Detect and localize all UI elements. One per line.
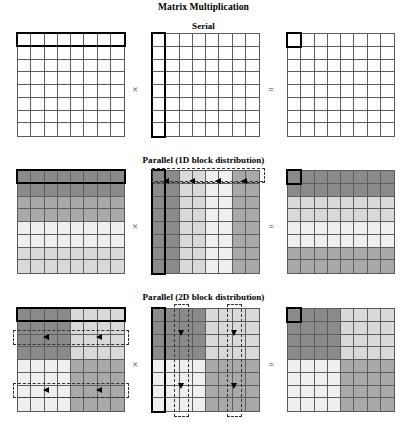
block1d-matrix-b-cell [219, 248, 232, 261]
serial-matrix-a-cell [31, 60, 44, 73]
serial-matrix-a-cell [111, 47, 124, 60]
block1d-matrix-c-cell [301, 171, 314, 184]
serial-matrix-c-cell [328, 123, 341, 136]
block1d-matrix-a-cell [98, 260, 111, 273]
block1d-matrix-b-cell [180, 248, 193, 261]
block2d-matrix-b-cell [193, 322, 206, 335]
block1d-matrix-a-cell [31, 260, 44, 273]
operator-times-serial: × [126, 85, 144, 95]
block1d-matrix-a-cell [45, 184, 58, 197]
block1d-matrix-c-cell [341, 171, 354, 184]
block1d-matrix-a-cell [31, 197, 44, 210]
block1d-matrix-c-cell [354, 248, 367, 261]
block1d-matrix-b-cell [193, 222, 206, 235]
serial-matrix-a-cell [31, 123, 44, 136]
serial-matrix-a-cell [31, 72, 44, 85]
serial-matrix-b-cell [233, 34, 246, 47]
serial-matrix-b-cell [233, 123, 246, 136]
block1d-matrix-a-cell [98, 184, 111, 197]
serial-matrix-b-cell [233, 72, 246, 85]
serial-matrix-b-cell [166, 47, 179, 60]
block1d-matrix-b-cell [166, 260, 179, 273]
block2d-matrix-a-cell [31, 322, 44, 335]
block1d-matrix-a-cell [18, 197, 31, 210]
serial-matrix-c-cell [354, 47, 367, 60]
block1d-matrix-c-cell [301, 260, 314, 273]
block2d-matrix-c-cell [381, 360, 394, 373]
block2d-matrix-b-cell [233, 398, 246, 411]
serial-matrix-b-cell [166, 34, 179, 47]
block2d-matrix-a-cell [98, 360, 111, 373]
serial-matrix-a-cell [84, 111, 97, 124]
block1d-matrix-b-cell [180, 260, 193, 273]
block2d-matrix-a-cell [31, 360, 44, 373]
serial-matrix-b-cell [219, 60, 232, 73]
block1d-matrix-c-cell [328, 222, 341, 235]
serial-matrix-b-cell [246, 60, 259, 73]
serial-matrix-c-cell [315, 34, 328, 47]
block2d-matrix-a-cell [18, 322, 31, 335]
block2d-matrix-a-cell [45, 360, 58, 373]
serial-matrix-b-cell [246, 111, 259, 124]
block1d-matrix-c-cell [368, 209, 381, 222]
serial-matrix-b-cell [193, 60, 206, 73]
serial-matrix-b-cell [246, 47, 259, 60]
serial-matrix-a-cell [71, 123, 84, 136]
block1d-matrix-b-cell [206, 222, 219, 235]
serial-matrix-b-cell [180, 85, 193, 98]
block2d-matrix-b-cell [206, 373, 219, 386]
block2d-matrix-b-cell [153, 309, 166, 322]
block2d-matrix-a-cell [18, 309, 31, 322]
serial-matrix-a-cell [84, 98, 97, 111]
serial-matrix-b-cell [246, 34, 259, 47]
block2d-matrix-b-cell [219, 322, 232, 335]
block1d-matrix-a-cell [98, 171, 111, 184]
block1d-matrix-b-cell [233, 184, 246, 197]
block1d-matrix-b-cell [219, 209, 232, 222]
block1d-matrix-b-cell [193, 197, 206, 210]
serial-matrix-b-cell [233, 85, 246, 98]
block2d-matrix-c-cell [381, 398, 394, 411]
block2d-matrix-b-cell [246, 335, 259, 348]
serial-matrix-a-cell [18, 123, 31, 136]
serial-matrix-c-cell [368, 60, 381, 73]
block1d-matrix-b [152, 170, 260, 274]
block1d-matrix-b-cell [166, 248, 179, 261]
serial-matrix-c-cell [381, 123, 394, 136]
block2d-matrix-c-cell [315, 398, 328, 411]
block2d-matrix-b-cell [153, 347, 166, 360]
block2d-matrix-b-cell [166, 309, 179, 322]
serial-matrix-c-cell [315, 47, 328, 60]
block2d-matrix-a-cell [31, 398, 44, 411]
block1d-matrix-c-cell [315, 184, 328, 197]
serial-matrix-b-cell [246, 85, 259, 98]
serial-matrix-a-cell [111, 72, 124, 85]
block1d-matrix-a-cell [18, 184, 31, 197]
block2d-matrix-b-cell [180, 386, 193, 399]
block1d-matrix-c-cell [288, 260, 301, 273]
block2d-matrix-b-cell [246, 322, 259, 335]
block1d-matrix-a-cell [71, 171, 84, 184]
block2d-matrix-a-cell [18, 347, 31, 360]
block2d-matrix-c-cell [354, 347, 367, 360]
serial-matrix-b-cell [233, 98, 246, 111]
section-title-2d-block: Parallel (2D block distribution) [0, 292, 407, 302]
block2d-matrix-a-cell [84, 386, 97, 399]
block1d-matrix-a-cell [98, 235, 111, 248]
block1d-matrix-c-cell [368, 248, 381, 261]
serial-matrix-b-cell [233, 47, 246, 60]
serial-matrix-a-cell [58, 34, 71, 47]
block2d-matrix-c-cell [381, 386, 394, 399]
serial-matrix-a-cell [58, 123, 71, 136]
serial-matrix-b-cell [219, 123, 232, 136]
block1d-matrix-c-cell [301, 184, 314, 197]
serial-matrix-b-cell [153, 60, 166, 73]
block1d-matrix-a-cell [71, 248, 84, 261]
block2d-matrix-a-cell [58, 360, 71, 373]
block2d-matrix-c-cell [301, 335, 314, 348]
block2d-matrix-c-cell [301, 373, 314, 386]
block1d-matrix-a-cell [111, 222, 124, 235]
block1d-matrix-b-cell [246, 222, 259, 235]
block2d-matrix-b-cell [206, 322, 219, 335]
block1d-matrix-c-cell [288, 197, 301, 210]
